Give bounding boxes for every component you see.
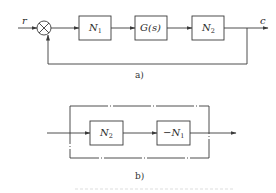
block-gs: G(s) [135,16,167,40]
block-b-n2: N2 [90,121,123,145]
block-b-neg-n1: −N1 [157,121,190,145]
block-b-n2-sub: 2 [109,132,113,140]
input-label-r: r [22,15,28,26]
caption-b: b) [135,171,144,181]
summing-junction-icon [37,21,51,35]
block-diagram-figure: r N1 G(s) N2 c a) [0,0,276,193]
block-n1-sub: 1 [98,27,102,35]
caption-a: a) [135,70,144,80]
output-label-c: c [260,15,266,26]
block-b-neg-n1-main: −N [163,127,181,138]
block-n1: N1 [79,16,111,40]
diagram-a: r N1 G(s) N2 c a) [18,15,268,80]
block-n2-sub: 2 [211,27,215,35]
block-gs-label: G(s) [140,22,161,33]
block-b-neg-n1-sub: 1 [180,132,184,140]
block-n2: N2 [192,16,224,40]
diagram-b: N2 −N1 b) [47,106,236,181]
